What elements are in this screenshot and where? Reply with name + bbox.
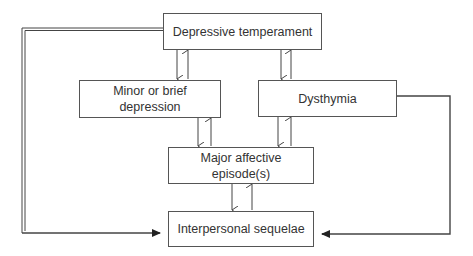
node-interpersonal-sequelae: Interpersonal sequelae — [168, 211, 314, 247]
node-label: Depressive temperament — [173, 24, 313, 40]
node-label-line2: depression — [119, 99, 180, 115]
node-label-line2: episode(s) — [212, 166, 270, 182]
node-label-line1: Major affective — [200, 150, 281, 166]
node-major-affective-episodes: Major affective episode(s) — [168, 147, 314, 184]
node-label-line1: Minor or brief — [113, 83, 187, 99]
node-label: Interpersonal sequelae — [177, 221, 304, 237]
node-depressive-temperament: Depressive temperament — [163, 13, 322, 50]
node-dysthymia: Dysthymia — [258, 80, 397, 117]
node-minor-brief-depression: Minor or brief depression — [79, 80, 221, 118]
double-line-temperament-to-interpersonal — [22, 28, 163, 233]
node-label: Dysthymia — [298, 91, 356, 107]
